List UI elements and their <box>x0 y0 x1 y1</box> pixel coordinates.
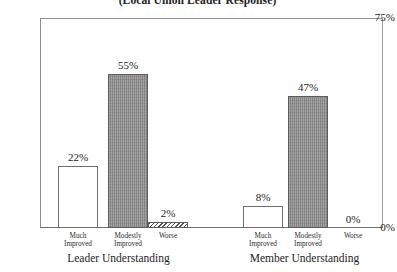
bar-value-label: 47% <box>288 81 328 93</box>
bar-value-label: 0% <box>333 213 373 225</box>
bar-value-label: 8% <box>243 191 283 203</box>
bars-layer <box>40 18 383 228</box>
bar <box>58 166 98 228</box>
group-title-leader-understanding: Leader Understanding <box>26 252 211 264</box>
bar <box>243 206 283 228</box>
bar <box>288 96 328 228</box>
group-title-member-understanding: Member Understanding <box>212 252 397 264</box>
bar-value-label: 22% <box>58 151 98 163</box>
bar <box>108 74 148 228</box>
chart-title: (Local Union Leader Response) <box>0 0 395 6</box>
category-tick-label: MuchImproved <box>52 232 104 249</box>
category-tick-label: Worse <box>142 232 194 240</box>
bar-value-label: 55% <box>108 59 148 71</box>
category-tick-label: Worse <box>327 232 379 240</box>
bar-value-label: 2% <box>148 207 188 219</box>
bar <box>148 222 188 228</box>
